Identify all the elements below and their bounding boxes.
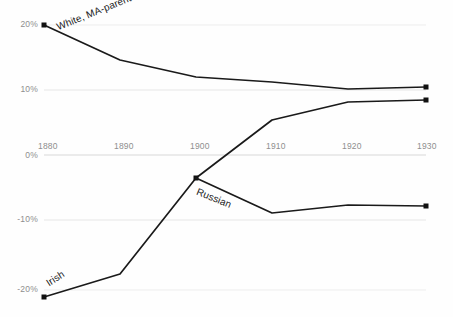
marker-point [424, 85, 429, 90]
line-chart: 20% 10% 0% -10% -20% 1880 1890 1900 1910… [0, 0, 453, 317]
x-tick-label-1920: 1920 [342, 141, 362, 151]
marker-point [424, 204, 429, 209]
x-tick-label-1930: 1930 [417, 141, 437, 151]
y-tick-label-0pct: 0% [14, 150, 38, 160]
x-tick-label-1880: 1880 [38, 141, 58, 151]
y-tick-label-neg20pct: -20% [11, 284, 38, 294]
series-white-ma-parentage-line [42, 23, 429, 90]
marker-point [42, 295, 47, 300]
marker-point [424, 98, 429, 103]
y-tick-label-10pct: 10% [14, 84, 38, 94]
x-tick-label-1910: 1910 [266, 141, 286, 151]
marker-point [42, 23, 47, 28]
gridlines [44, 25, 426, 290]
series-irish-line [42, 98, 429, 300]
chart-canvas [0, 0, 453, 317]
y-tick-label-20pct: 20% [14, 19, 38, 29]
x-tick-label-1900: 1900 [190, 141, 210, 151]
y-tick-label-neg10pct: -10% [11, 214, 38, 224]
x-tick-label-1890: 1890 [114, 141, 134, 151]
series-russian-line [196, 178, 429, 213]
